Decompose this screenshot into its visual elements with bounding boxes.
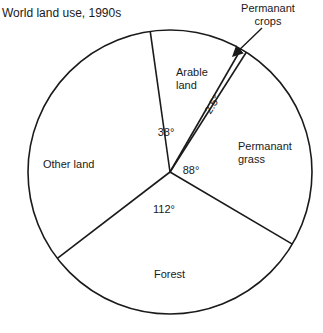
pie-chart: ArablelandPermanantcropsPermanantgrassFo… xyxy=(0,0,323,333)
value-label-permanant-grass: 88° xyxy=(183,164,200,176)
slice-label-other-land: Other land xyxy=(43,158,94,170)
permanant-crops-arrow xyxy=(234,28,262,55)
slice-label-forest: Forest xyxy=(154,268,185,280)
value-label-arable-land: 38° xyxy=(158,126,175,138)
slice-label-permanant-crops: Permanantcrops xyxy=(241,2,295,27)
value-label-forest: 112° xyxy=(153,203,175,215)
